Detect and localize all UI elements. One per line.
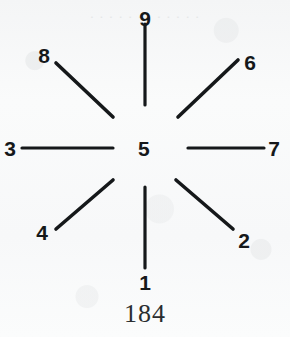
spoke-label-7: 7: [266, 138, 282, 159]
figure-caption: 184: [0, 299, 290, 329]
spoke-line-8: [56, 63, 113, 117]
spoke-line-2: [176, 180, 233, 229]
spoke-label-4: 4: [34, 222, 50, 243]
spoke-label-3: 3: [2, 138, 18, 159]
spoke-label-8: 8: [36, 45, 52, 66]
spoke-line-4: [56, 180, 113, 229]
spoke-label-2: 2: [236, 230, 252, 251]
spoke-label-9: 9: [137, 8, 153, 29]
spoke-label-1: 1: [137, 272, 153, 293]
center-node-label: 5: [138, 138, 150, 159]
spoke-line-6: [178, 60, 238, 117]
spoke-label-6: 6: [242, 52, 258, 73]
figure-page: · · · · · · · · · · · · 96721438 5 184: [0, 0, 290, 337]
